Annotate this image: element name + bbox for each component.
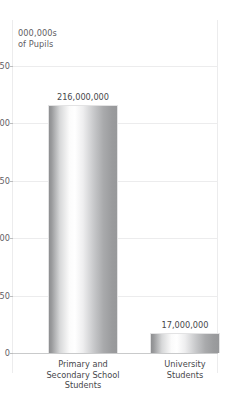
bar-value-label: 216,000,000 bbox=[57, 92, 109, 102]
bar-value-label: 17,000,000 bbox=[162, 320, 209, 330]
y-axis-title: 000,000s of Pupils bbox=[18, 28, 57, 49]
y-tick-label-200: 200 bbox=[0, 118, 10, 128]
bar-chart-figure: 000,000s of Pupils 250 200 150 100 50 0 bbox=[0, 0, 230, 409]
y-tick-label-150: 150 bbox=[0, 176, 10, 186]
bar-primary-secondary[interactable]: 216,000,000 Primary and Secondary School… bbox=[48, 105, 118, 353]
tick-mark-100 bbox=[10, 238, 13, 239]
category-label-university: University Students bbox=[125, 359, 230, 380]
axis-baseline-0: 0 bbox=[13, 353, 218, 354]
y-tick-label-0: 0 bbox=[5, 348, 10, 358]
y-tick-label-100: 100 bbox=[0, 233, 10, 243]
tick-mark-250 bbox=[10, 66, 13, 67]
tick-mark-200 bbox=[10, 123, 13, 124]
bar-university[interactable]: 17,000,000 University Students bbox=[150, 333, 220, 353]
plot-area: 250 200 150 100 50 0 216,000,000 Primary… bbox=[13, 66, 218, 353]
tick-mark-0 bbox=[10, 353, 13, 354]
tick-mark-50 bbox=[10, 296, 13, 297]
gridline-250: 250 bbox=[13, 66, 218, 67]
tick-mark-150 bbox=[10, 181, 13, 182]
y-tick-label-250: 250 bbox=[0, 61, 10, 71]
y-tick-label-50: 50 bbox=[0, 291, 10, 301]
